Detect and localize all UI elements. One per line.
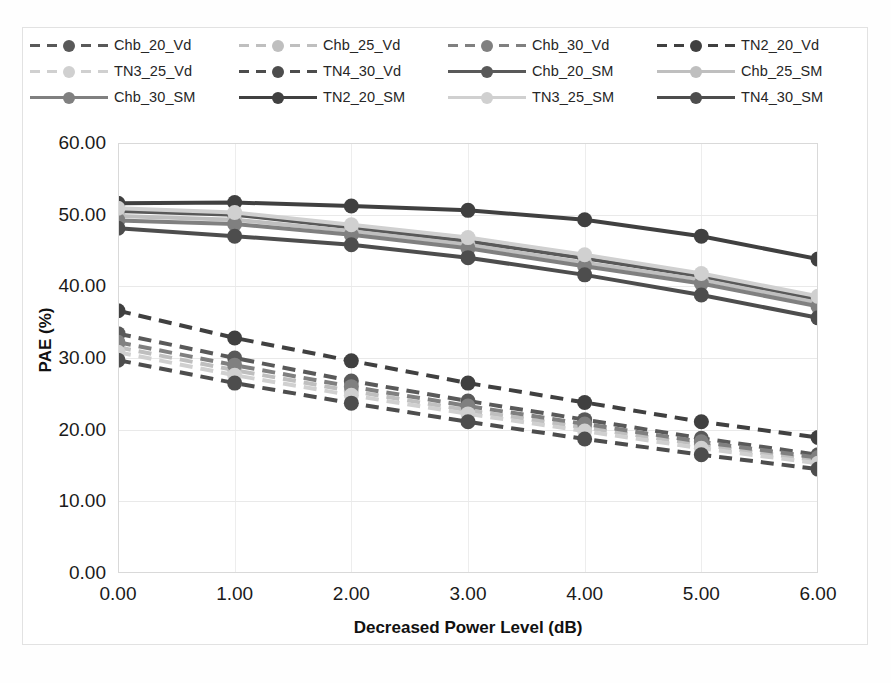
legend-row: Chb_20_VdChb_25_VdChb_30_VdTN2_20_Vd	[30, 32, 866, 58]
data-point	[461, 250, 476, 265]
y-tick-label: 60.00	[14, 132, 106, 154]
legend-label: Chb_20_SM	[532, 63, 614, 79]
chart-legend: Chb_20_VdChb_25_VdChb_30_VdTN2_20_VdTN3_…	[30, 32, 866, 110]
y-tick-label: 10.00	[14, 490, 106, 512]
data-point	[227, 330, 242, 345]
data-point	[227, 229, 242, 244]
data-point	[577, 267, 592, 282]
x-tick-label: 1.00	[216, 583, 253, 605]
data-point	[577, 395, 592, 410]
data-point	[811, 310, 819, 325]
chart-figure: Chb_20_VdChb_25_VdChb_30_VdTN2_20_VdTN3_…	[0, 0, 891, 683]
x-axis-tick-labels: 0.001.002.003.004.005.006.00	[118, 583, 818, 611]
data-point	[694, 287, 709, 302]
legend-item-tn2_20_sm[interactable]: TN2_20_SM	[239, 89, 448, 105]
x-tick-label: 5.00	[683, 583, 720, 605]
x-tick-label: 0.00	[100, 583, 137, 605]
legend-label: TN4_30_Vd	[323, 63, 401, 79]
legend-label: TN2_20_Vd	[741, 37, 819, 53]
legend-item-tn4_30_vd[interactable]: TN4_30_Vd	[239, 63, 448, 79]
data-point	[811, 252, 819, 267]
legend-item-chb_25_sm[interactable]: Chb_25_SM	[657, 63, 866, 79]
series-chb_20_vd	[118, 326, 818, 462]
legend-label: Chb_25_Vd	[323, 37, 401, 53]
legend-label: TN3_25_SM	[532, 89, 614, 105]
legend-item-tn2_20_vd[interactable]: TN2_20_Vd	[657, 37, 866, 53]
data-point	[577, 247, 592, 262]
data-point	[344, 199, 359, 214]
y-tick-label: 40.00	[14, 275, 106, 297]
data-point	[118, 303, 126, 318]
legend-item-chb_20_vd[interactable]: Chb_20_Vd	[30, 37, 239, 53]
legend-item-chb_30_sm[interactable]: Chb_30_SM	[30, 89, 239, 105]
legend-label: Chb_30_SM	[114, 89, 196, 105]
x-tick-label: 6.00	[800, 583, 837, 605]
data-point	[694, 447, 709, 462]
legend-label: TN3_25_Vd	[114, 63, 192, 79]
legend-label: TN2_20_SM	[323, 89, 405, 105]
legend-swatch-icon	[239, 64, 317, 78]
data-point	[461, 203, 476, 218]
legend-swatch-icon	[30, 64, 108, 78]
legend-swatch-icon	[30, 90, 108, 104]
data-point	[227, 205, 242, 220]
legend-swatch-icon	[448, 90, 526, 104]
data-point	[577, 431, 592, 446]
x-axis-title: Decreased Power Level (dB)	[118, 618, 818, 638]
y-axis-title: PAE (%)	[36, 280, 56, 400]
legend-item-tn4_30_sm[interactable]: TN4_30_SM	[657, 89, 866, 105]
legend-swatch-icon	[239, 90, 317, 104]
legend-item-tn3_25_sm[interactable]: TN3_25_SM	[448, 89, 657, 105]
legend-label: TN4_30_SM	[741, 89, 823, 105]
data-point	[461, 376, 476, 391]
legend-item-tn3_25_vd[interactable]: TN3_25_Vd	[30, 63, 239, 79]
legend-item-chb_25_vd[interactable]: Chb_25_Vd	[239, 37, 448, 53]
legend-swatch-icon	[448, 64, 526, 78]
y-axis-tick-labels: 0.0010.0020.0030.0040.0050.0060.00	[14, 143, 106, 573]
legend-item-chb_20_sm[interactable]: Chb_20_SM	[448, 63, 657, 79]
legend-swatch-icon	[30, 38, 108, 52]
legend-label: Chb_20_Vd	[114, 37, 192, 53]
data-point	[461, 230, 476, 245]
data-point	[461, 414, 476, 429]
data-point	[227, 376, 242, 391]
data-point	[344, 396, 359, 411]
y-tick-label: 50.00	[14, 204, 106, 226]
legend-label: Chb_30_Vd	[532, 37, 610, 53]
data-point	[344, 237, 359, 252]
legend-row: TN3_25_VdTN4_30_VdChb_20_SMChb_25_SM	[30, 58, 866, 84]
legend-swatch-icon	[657, 64, 735, 78]
legend-label: Chb_25_SM	[741, 63, 823, 79]
legend-swatch-icon	[239, 38, 317, 52]
legend-swatch-icon	[448, 38, 526, 52]
legend-swatch-icon	[657, 38, 735, 52]
data-point	[694, 266, 709, 281]
data-point	[344, 217, 359, 232]
x-tick-label: 4.00	[566, 583, 603, 605]
y-tick-label: 30.00	[14, 347, 106, 369]
data-point	[577, 212, 592, 227]
legend-swatch-icon	[657, 90, 735, 104]
data-point	[694, 414, 709, 429]
plot-area	[118, 143, 818, 573]
data-point	[811, 430, 819, 445]
chart-series-svg	[118, 143, 818, 573]
y-tick-label: 0.00	[14, 562, 106, 584]
legend-item-chb_30_vd[interactable]: Chb_30_Vd	[448, 37, 657, 53]
y-tick-label: 20.00	[14, 419, 106, 441]
legend-row: Chb_30_SMTN2_20_SMTN3_25_SMTN4_30_SM	[30, 84, 866, 110]
x-tick-label: 3.00	[450, 583, 487, 605]
x-tick-label: 2.00	[333, 583, 370, 605]
data-point	[344, 353, 359, 368]
data-point	[694, 229, 709, 244]
